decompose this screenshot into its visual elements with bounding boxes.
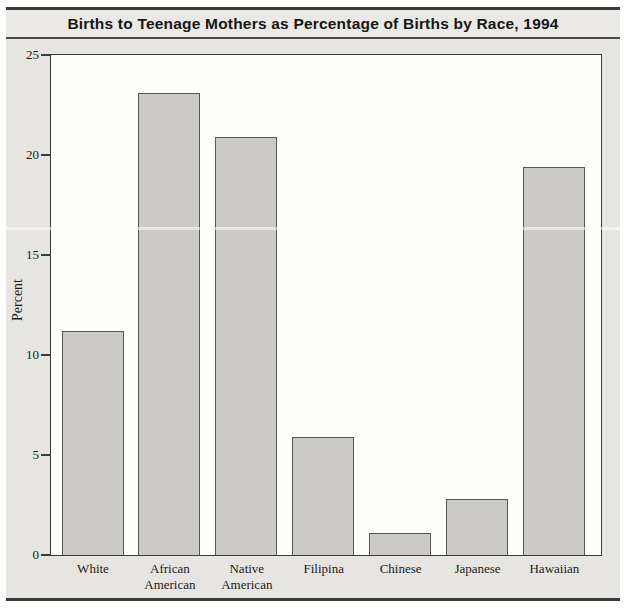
y-tick-mark-5: [41, 454, 51, 456]
bottom-border-rule: [6, 598, 620, 601]
y-tick-mark-10: [41, 354, 51, 356]
y-tick-mark-0: [41, 554, 51, 556]
bar-chinese: [369, 533, 431, 555]
bar-white: [62, 331, 124, 555]
y-tick-mark-20: [41, 154, 51, 156]
y-tick-label-25: 25: [8, 47, 39, 63]
y-tick-mark-15: [41, 254, 51, 256]
title-band: Births to Teenage Mothers as Percentage …: [6, 10, 620, 37]
bar-african-american: [138, 93, 200, 555]
y-axis-title: Percent: [10, 269, 26, 331]
y-tick-label-0: 0: [8, 547, 39, 563]
y-tick-mark-25: [41, 54, 51, 56]
bar-hawaiian: [523, 167, 585, 555]
x-label-line: American: [192, 577, 302, 593]
x-label-hawaiian: Hawaiian: [499, 561, 609, 577]
plot-area: [50, 54, 602, 556]
chart-title: Births to Teenage Mothers as Percentage …: [67, 15, 558, 33]
y-tick-label-20: 20: [8, 147, 39, 163]
scan-line-artifact: [6, 227, 620, 230]
bar-japanese: [446, 499, 508, 555]
bar-native-american: [215, 137, 277, 555]
y-tick-label-5: 5: [8, 447, 39, 463]
y-tick-label-10: 10: [8, 347, 39, 363]
figure: Births to Teenage Mothers as Percentage …: [0, 0, 624, 612]
bar-filipina: [292, 437, 354, 555]
x-label-line: Hawaiian: [499, 561, 609, 577]
y-tick-label-15: 15: [8, 247, 39, 263]
